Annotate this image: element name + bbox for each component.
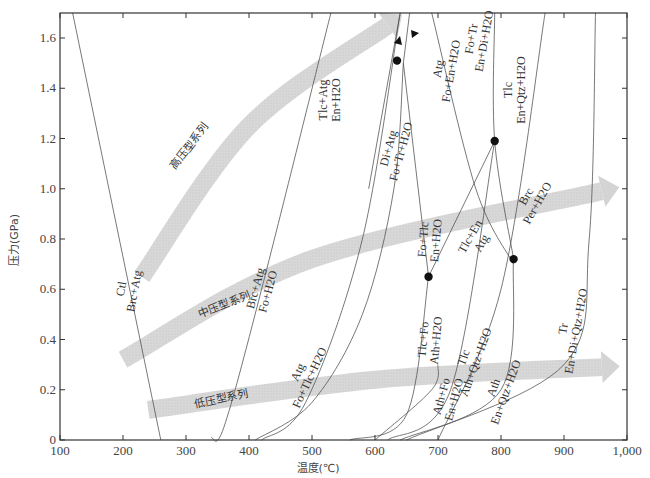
y-tick-label: 1.4: [40, 80, 57, 95]
reaction-curve: [350, 277, 429, 440]
x-tick-label: 400: [239, 443, 259, 458]
y-tick-label: 0.2: [40, 382, 56, 397]
y-tick-label: 1.6: [40, 30, 57, 45]
reaction-label: Tlc+FoAth+H2O: [414, 314, 445, 365]
metamorphic-series-bands: 高压型系列中压型系列低压型系列: [123, 12, 620, 410]
series-arrowhead: [601, 351, 620, 383]
reaction-product: En+Qtz+H2O: [514, 56, 528, 124]
reaction-product: Ath+H2O: [427, 316, 445, 365]
reaction-label: AtgFo+Tlc+H2O: [277, 339, 329, 410]
reaction-reactant: Tlc: [501, 82, 515, 98]
y-tick-label: 0.8: [40, 231, 56, 246]
x-tick-label: 900: [554, 443, 574, 458]
reaction-label: TlcEn+Qtz+H2O: [501, 56, 528, 124]
y-tick-label: 0: [50, 432, 57, 447]
reaction-label: Fo+TrEn+Di+H2O: [459, 7, 496, 73]
invariant-point: [424, 272, 432, 280]
invariant-point: [509, 255, 517, 263]
x-tick-label: 600: [365, 443, 385, 458]
invariant-point: [393, 56, 401, 64]
phase-diagram: 高压型系列中压型系列低压型系列 CtlBrc+AtgBrc+AtgFo+H2OT…: [0, 0, 650, 478]
reaction-curve: [73, 13, 161, 440]
y-tick-label: 1.0: [40, 181, 56, 196]
x-tick-label: 800: [491, 443, 511, 458]
series-band-label: 高压型系列: [166, 120, 211, 172]
y-tick-label: 0.6: [40, 281, 57, 296]
reaction-reactant: Tlc+Atg: [316, 80, 330, 121]
reaction-label: CtlBrc+Atg: [111, 267, 145, 313]
y-axis-title: 压力(GPa): [8, 214, 21, 266]
x-tick-label: 700: [428, 443, 448, 458]
x-axis-title: 温度(℃): [297, 461, 340, 475]
arrow-marker-icon: [411, 30, 419, 38]
invariant-point: [491, 137, 499, 145]
reaction-label: AtgFo+En+H2O: [426, 36, 464, 103]
reaction-product: En+H2O: [427, 218, 445, 263]
reaction-label: Brc+AtgFo+H2O: [243, 265, 280, 314]
reaction-label: Fo+TlcEn+H2O: [414, 217, 445, 263]
reaction-label: Tlc+AtgEn+H2O: [316, 78, 343, 122]
x-tick-label: 1,000: [612, 443, 641, 458]
reaction-curve: [403, 13, 409, 63]
x-tick-label: 200: [113, 443, 133, 458]
x-tick-label: 300: [176, 443, 196, 458]
reaction-product: En+H2O: [329, 78, 343, 122]
x-tick-label: 500: [302, 443, 322, 458]
y-tick-label: 1.2: [40, 131, 56, 146]
y-tick-label: 0.4: [40, 332, 57, 347]
